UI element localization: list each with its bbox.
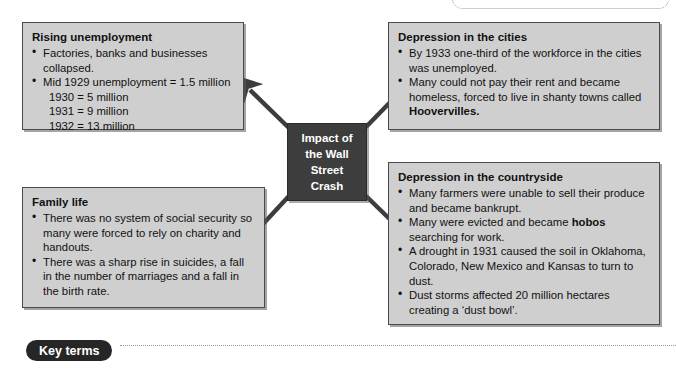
list-item: There was no system of social security s… [32,211,255,255]
list-item: A drought in 1931 caused the soil in Okl… [398,244,650,288]
center-line: Street [311,162,344,178]
arrow-to-rising-unemployment [250,90,289,128]
bullet-list: Factories, banks and businesses collapse… [32,46,234,134]
box-depression-in-the-countryside: Depression in the countryside Many farme… [388,162,660,325]
list-item: Many farmers were unable to sell their p… [398,186,650,215]
diagram-page: Rising unemployment Factories, banks and… [0,0,676,370]
list-item: Factories, banks and businesses collapse… [32,46,234,75]
center-node-impact-of-the-wall-street-crash: Impact of the Wall Street Crash [287,123,367,201]
box-title: Family life [32,195,255,210]
list-item: 1931 = 9 million [32,104,234,119]
bullet-list: There was no system of social security s… [32,211,255,299]
box-family-life: Family life There was no system of socia… [22,187,265,308]
list-item: 1930 = 5 million [32,90,234,105]
bullet-list: By 1933 one-third of the workforce in th… [398,46,650,119]
list-item: There was a sharp rise in suicides, a fa… [32,255,255,299]
box-title: Depression in the cities [398,30,650,45]
list-item: By 1933 one-third of the workforce in th… [398,46,650,75]
list-item: Many could not pay their rent and became… [398,75,650,119]
center-line: Crash [311,178,344,194]
list-item: 1932 = 13 million [32,119,234,134]
list-item: Dust storms affected 20 million hectares… [398,288,650,317]
bullet-list: Many farmers were unable to sell their p… [398,186,650,317]
center-line: Impact of [301,130,352,146]
key-terms-heading: Key terms [26,340,112,361]
list-item: Many were evicted and became hobos searc… [398,215,650,244]
box-rising-unemployment: Rising unemployment Factories, banks and… [22,22,244,130]
dotted-box-fragment [452,0,669,9]
center-line: the Wall [305,146,349,162]
box-title: Rising unemployment [32,30,234,45]
box-depression-in-the-cities: Depression in the cities By 1933 one-thi… [388,22,660,130]
key-terms-dotted-rule [120,345,676,346]
box-title: Depression in the countryside [398,170,650,185]
list-item: Mid 1929 unemployment = 1.5 million [32,75,234,90]
